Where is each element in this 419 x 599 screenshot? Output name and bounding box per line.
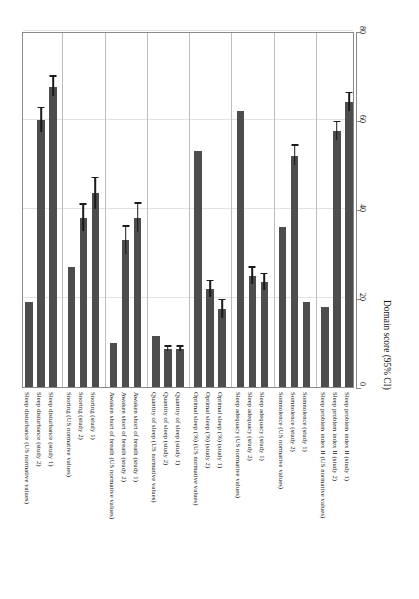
error-bar-cap xyxy=(219,299,226,301)
axis-tick-label: 20 xyxy=(358,293,367,301)
axis-tick xyxy=(356,388,361,389)
gridline xyxy=(23,30,353,31)
category-label: Quantity of sleep (study 1) xyxy=(175,392,182,465)
gridline xyxy=(23,208,353,209)
error-bar xyxy=(125,227,127,254)
group-separator xyxy=(147,33,148,387)
error-bar-cap xyxy=(134,202,141,204)
bar-rect xyxy=(249,276,256,387)
bar-rect xyxy=(110,343,117,388)
category-label: Somnolence (study 1) xyxy=(302,392,309,452)
category-label: Sleep disturbance (study 2) xyxy=(36,392,43,467)
bar-rect xyxy=(134,218,141,387)
error-bar xyxy=(348,93,350,111)
bar-rect xyxy=(206,289,213,387)
bar-rect xyxy=(122,240,129,387)
group-separator xyxy=(62,33,63,387)
category-label: Somnolence (study 2) xyxy=(290,392,297,452)
axis-title: Domain score (95% CI) xyxy=(382,300,392,390)
gridline xyxy=(23,119,353,120)
error-bar-cap xyxy=(333,121,340,123)
error-bar xyxy=(221,300,223,318)
category-label: Awaken short of breath (study 1) xyxy=(133,392,140,482)
error-bar-cap xyxy=(92,177,99,179)
category-label: Sleep adequacy (study 2) xyxy=(247,392,254,461)
error-bar xyxy=(95,178,97,208)
error-bar xyxy=(336,122,338,140)
error-bar xyxy=(264,274,266,290)
group-separator xyxy=(189,33,190,387)
error-bar xyxy=(252,268,254,284)
category-label: Awaken short of breath (US normative val… xyxy=(109,392,116,519)
error-bar xyxy=(52,77,54,97)
category-label: Awaken short of breath (study 2) xyxy=(121,392,128,482)
axis-tick-label: 60 xyxy=(358,115,367,123)
category-label: Snoring (US normative values) xyxy=(66,392,73,477)
error-bar-cap xyxy=(261,273,268,275)
bar-rect xyxy=(303,302,310,387)
axis-tick-label: 40 xyxy=(358,204,367,212)
category-label: Optimal sleep (%) (study 2) xyxy=(205,392,212,468)
plot-area xyxy=(22,32,354,388)
sleep-domain-score-bar-chart: 020406080 Sleep disturbance (US normativ… xyxy=(0,0,419,599)
category-label: Sleep problem index II (US normative val… xyxy=(320,392,327,518)
category-label: Sleep adequacy (US normative values) xyxy=(235,392,242,498)
category-label: Sleep disturbance (study 1) xyxy=(48,392,55,467)
error-bar-cap xyxy=(164,345,171,347)
bar-rect xyxy=(321,307,328,387)
category-label: Somnolence (US normative values) xyxy=(278,392,285,489)
error-bar-cap xyxy=(38,107,45,109)
group-separator xyxy=(316,33,317,387)
group-separator xyxy=(105,33,106,387)
bar-rect xyxy=(261,282,268,387)
bar-rect xyxy=(152,336,159,387)
category-label: Optimal sleep (%) (study 1) xyxy=(217,392,224,468)
error-bar-cap xyxy=(50,75,57,77)
bar-rect xyxy=(25,302,32,387)
bar-rect xyxy=(92,193,99,387)
category-label: Quantity of sleep (US normative values) xyxy=(151,392,158,503)
bar-rect xyxy=(333,131,340,387)
bar-rect xyxy=(176,349,183,387)
axis-tick-label: 80 xyxy=(358,26,367,34)
bar-rect xyxy=(49,87,56,387)
error-bar xyxy=(40,108,42,131)
error-bar-cap xyxy=(176,345,183,347)
category-label: Sleep problem index II (study 1) xyxy=(344,392,351,481)
group-separator xyxy=(274,33,275,387)
error-bar xyxy=(137,204,139,232)
error-bar-cap xyxy=(207,280,214,282)
bar-rect xyxy=(37,120,44,387)
bar-rect xyxy=(237,111,244,387)
category-label: Snoring (study 2) xyxy=(78,392,85,440)
bar-rect xyxy=(164,349,171,387)
bar-rect xyxy=(80,218,87,387)
error-bar xyxy=(294,146,296,166)
error-bar xyxy=(167,347,169,351)
bar-rect xyxy=(345,102,352,387)
error-bar xyxy=(83,205,85,232)
error-bar-cap xyxy=(345,92,352,94)
error-bar xyxy=(179,347,181,351)
error-bar-cap xyxy=(291,144,298,146)
category-label: Sleep adequacy (study 1) xyxy=(259,392,266,461)
category-label: Quantity of sleep (study 2) xyxy=(163,392,170,465)
error-bar xyxy=(209,281,211,297)
error-bar-cap xyxy=(80,203,87,205)
category-label: Sleep disturbance (US normative values) xyxy=(24,392,31,504)
error-bar-cap xyxy=(249,266,256,268)
bar-rect xyxy=(279,227,286,387)
group-separator xyxy=(231,33,232,387)
category-label: Optimal sleep (%) (US normative values) xyxy=(193,392,200,506)
error-bar-cap xyxy=(122,225,129,227)
bar-rect xyxy=(68,267,75,387)
bar-rect xyxy=(291,156,298,387)
axis-tick-label: 0 xyxy=(358,382,367,386)
bar-rect xyxy=(194,151,201,387)
category-label: Sleep problem index II (study 2) xyxy=(332,392,339,481)
bar-rect xyxy=(218,309,225,387)
category-label: Snoring (study 1) xyxy=(90,392,97,440)
